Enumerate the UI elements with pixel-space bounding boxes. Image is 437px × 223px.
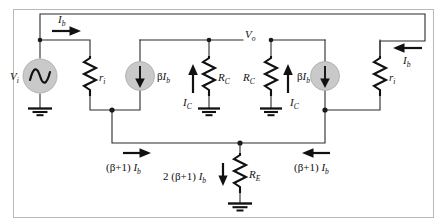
label-ri-left: ri — [99, 71, 105, 86]
node-emitter-common — [237, 140, 242, 145]
label-re: RE — [248, 168, 261, 183]
node-emitter-right — [322, 107, 327, 112]
resistor-rc-right — [265, 56, 277, 96]
current-arrow-emitter-right — [302, 148, 330, 158]
circuit-canvas: Vi ri βIb IC RC Vo Ib — [0, 0, 437, 223]
current-arrow-ic-left — [188, 64, 198, 93]
label-emitter-current-left: (β+1) Ib — [106, 161, 141, 176]
label-emitter-current-right: (β+1) Ib — [294, 161, 329, 176]
resistor-rc-left — [203, 56, 215, 96]
wire-right-emitter-rail — [240, 110, 325, 143]
label-ib-top-left: Ib — [57, 13, 66, 28]
ground-re — [228, 204, 252, 211]
label-rc-right: RC — [242, 71, 256, 86]
current-arrow-emitter-left — [123, 148, 151, 158]
current-arrow-ib-left — [52, 26, 81, 36]
ac-voltage-source — [23, 59, 57, 93]
label-beta-ib-left: βIb — [157, 70, 170, 85]
resistor-re — [234, 153, 246, 193]
current-arrow-ic-right — [283, 64, 293, 93]
resistor-ri-left — [84, 56, 96, 96]
wire-outer-loop — [40, 14, 425, 56]
label-ri-right: ri — [389, 71, 395, 86]
wire-left-ri-emitter — [90, 96, 112, 110]
circuit-figure: Vi ri βIb IC RC Vo Ib — [0, 0, 437, 223]
wire-left-emitter-rail — [112, 110, 240, 143]
label-vo: Vo — [245, 28, 256, 43]
figure-border — [14, 10, 434, 218]
current-arrow-re — [218, 163, 227, 186]
resistor-ri-right — [374, 56, 386, 96]
wire-left-base — [40, 40, 90, 56]
current-source-left — [126, 62, 155, 91]
label-ib-top-right: Ib — [402, 54, 411, 69]
label-vi: Vi — [10, 70, 19, 85]
ground-source — [28, 109, 52, 116]
current-arrow-ib-right — [393, 43, 422, 53]
label-re-current: 2 (β+1) Ib — [163, 170, 206, 185]
node-collector-right — [269, 38, 274, 43]
label-ic-left: IC — [182, 96, 193, 111]
label-rc-left: RC — [217, 71, 231, 86]
label-ic-right: IC — [289, 96, 300, 111]
node-emitter-left — [109, 107, 114, 112]
current-source-right — [311, 62, 340, 91]
node-vo-left — [207, 38, 212, 43]
ground-rc-right — [260, 109, 282, 116]
label-beta-ib-right: βIb — [297, 70, 310, 85]
ground-rc-left — [198, 109, 220, 116]
node-input-base — [38, 38, 43, 43]
